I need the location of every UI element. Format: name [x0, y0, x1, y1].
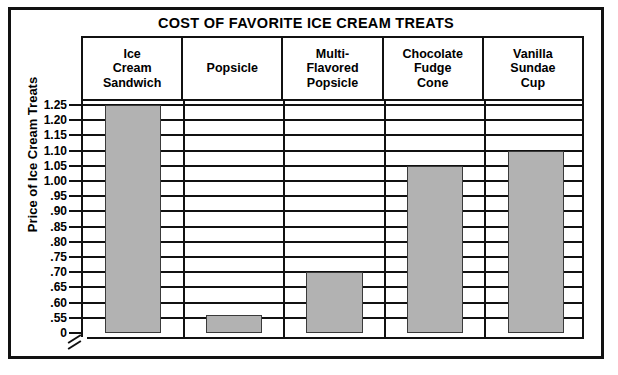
category-header-cell: Multi-FlavoredPopsicle [283, 38, 383, 99]
chart-title: COST OF FAVORITE ICE CREAM TREATS [11, 15, 601, 31]
y-tick-label: 1.15 [27, 128, 67, 142]
category-header-line: Ice [123, 47, 140, 62]
category-header-line: Flavored [306, 61, 358, 76]
column-separator [484, 101, 486, 337]
bar [105, 105, 161, 333]
y-tick-mark [69, 104, 81, 106]
category-header-row: IceCreamSandwichPopsicleMulti-FlavoredPo… [81, 36, 584, 101]
y-tick-mark [69, 302, 81, 304]
y-tick-mark [69, 150, 81, 152]
y-tick-mark [69, 226, 81, 228]
y-tick-mark [69, 210, 81, 212]
category-header-line: Chocolate [402, 47, 462, 62]
y-tick-mark [69, 317, 81, 319]
y-tick-label: .60 [27, 296, 67, 310]
bar [306, 272, 362, 333]
y-tick-mark [69, 165, 81, 167]
category-header-line: Multi- [316, 47, 349, 62]
y-tick-label: .75 [27, 250, 67, 264]
chart-figure: COST OF FAVORITE ICE CREAM TREATS Price … [8, 7, 604, 359]
y-tick-label: 1.05 [27, 159, 67, 173]
category-header-line: Popsicle [307, 76, 358, 91]
axis-break-icon [65, 334, 87, 350]
bar [407, 166, 463, 333]
category-header-line: Sundae [510, 61, 555, 76]
y-tick-label: .55 [27, 311, 67, 325]
y-tick-label: .80 [27, 235, 67, 249]
category-header-line: Fudge [414, 61, 452, 76]
y-tick-label: 1.20 [27, 113, 67, 127]
category-header-line: Cone [417, 76, 448, 91]
y-tick-mark [69, 180, 81, 182]
y-tick-label: .90 [27, 204, 67, 218]
y-tick-label: 0 [27, 326, 67, 340]
column-separator [384, 101, 386, 337]
column-separator [183, 101, 185, 337]
category-header-cell: VanillaSundaeCup [484, 38, 582, 99]
y-tick-label: 1.00 [27, 174, 67, 188]
plot-body [81, 101, 584, 339]
y-tick-mark [69, 241, 81, 243]
category-header-cell: Popsicle [183, 38, 283, 99]
category-header-line: Popsicle [207, 61, 258, 76]
y-tick-label: .65 [27, 280, 67, 294]
y-tick-label: .85 [27, 220, 67, 234]
y-tick-label: .95 [27, 189, 67, 203]
y-tick-label: 1.10 [27, 144, 67, 158]
y-tick-label: .70 [27, 265, 67, 279]
category-header-cell: IceCreamSandwich [83, 38, 183, 99]
category-header-line: Cup [521, 76, 545, 91]
category-header-line: Cream [113, 61, 152, 76]
category-header-line: Vanilla [513, 47, 553, 62]
column-separator [283, 101, 285, 337]
y-tick-label: 1.25 [27, 98, 67, 112]
y-tick-mark [69, 119, 81, 121]
y-tick-mark [69, 134, 81, 136]
y-tick-mark [69, 286, 81, 288]
category-header-cell: ChocolateFudgeCone [384, 38, 484, 99]
bar [206, 315, 262, 333]
bar [508, 151, 564, 333]
plot-grid: IceCreamSandwichPopsicleMulti-FlavoredPo… [81, 36, 584, 339]
y-tick-mark [69, 195, 81, 197]
y-axis-tick-labels: 0.55.60.65.70.75.80.85.90.951.001.051.10… [19, 10, 81, 356]
category-header-line: Sandwich [103, 76, 161, 91]
y-tick-mark [69, 256, 81, 258]
y-tick-mark [69, 271, 81, 273]
